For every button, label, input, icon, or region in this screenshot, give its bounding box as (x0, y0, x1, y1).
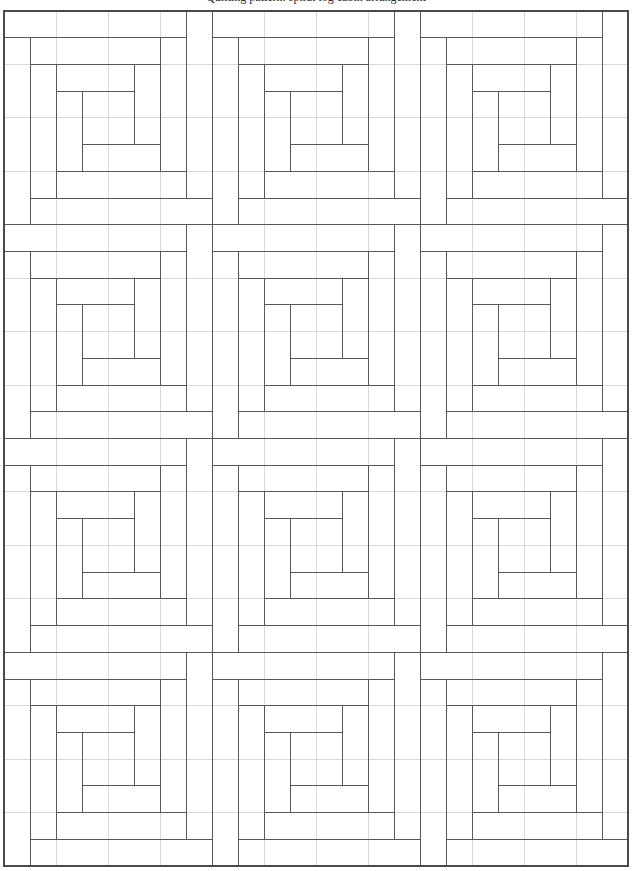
quilt-figure (0, 0, 632, 871)
caption-clip: Quilting pattern: spiral log cabin arran… (0, 0, 632, 7)
page-root: Quilting pattern: spiral log cabin arran… (0, 0, 632, 871)
quilt-diagram (0, 0, 632, 871)
page-caption: Quilting pattern: spiral log cabin arran… (0, 0, 632, 5)
